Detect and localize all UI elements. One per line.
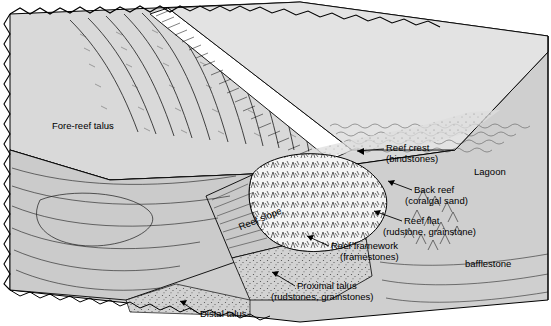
label-reef-framework-sub: (framestones) <box>340 251 399 262</box>
label-reef-framework: Reef framework <box>331 240 398 251</box>
reef-block-diagram <box>0 0 551 326</box>
label-back-reef: Back reef <box>414 184 454 195</box>
label-reef-flat-sub: (rudstone, grainstone) <box>383 226 476 237</box>
label-proximal-talus: Proximal talus <box>297 280 357 291</box>
label-fore-reef-talus: Fore-reef talus <box>52 120 114 131</box>
figure-container: Fore-reef talus Reef crest (bindstones) … <box>0 0 551 326</box>
label-proximal-talus-sub: (rudstones, grainstones) <box>271 291 373 302</box>
left-serrated-edge <box>4 14 10 290</box>
label-reef-flat: Reef flat <box>404 215 439 226</box>
label-reef-crest-sub: (bindstones) <box>386 153 438 164</box>
label-reef-crest: Reef crest <box>386 142 429 153</box>
label-distal-talus: Distal talus <box>200 308 246 319</box>
label-back-reef-sub: (coralgal sand) <box>405 195 468 206</box>
label-lagoon: Lagoon <box>474 166 506 177</box>
label-bafflestone: bafflestone <box>465 258 511 269</box>
